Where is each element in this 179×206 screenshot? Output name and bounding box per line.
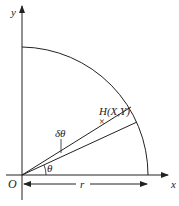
y-axis-label: y	[10, 6, 16, 18]
quarter-circle-diagram: y x O H(X,Y) × δθ θ r	[0, 0, 179, 206]
radius-label: r	[80, 178, 85, 190]
point-h-marker: ×	[99, 116, 105, 127]
theta-label: θ	[47, 162, 53, 174]
x-axis-label: x	[170, 178, 176, 190]
ray-upper	[22, 107, 131, 175]
delta-theta-label: δθ	[55, 127, 66, 139]
theta-arc	[44, 165, 46, 175]
ray-lower	[22, 122, 137, 175]
origin-label: O	[8, 177, 17, 191]
